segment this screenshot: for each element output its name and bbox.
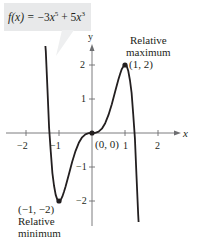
y-tick-label: −1 <box>76 161 87 173</box>
relative-max-label-line2: maximum <box>126 46 171 58</box>
relative-min-label-line2: minimum <box>18 227 61 239</box>
x-axis-label: x <box>183 127 188 139</box>
origin-point <box>89 130 94 135</box>
origin-coordinates: (0, 0) <box>95 138 119 150</box>
y-tick-label: 2 <box>80 59 85 71</box>
x-tick-label: 1 <box>123 140 128 152</box>
y-tick-label: −2 <box>76 195 87 207</box>
relative-max-point <box>122 62 127 67</box>
x-tick-label: 2 <box>155 140 160 152</box>
x-tick-label: −1 <box>50 140 61 152</box>
relative-min-coordinates: (−1, −2) <box>18 203 54 215</box>
relative-min-label-line1: Relative <box>18 215 55 227</box>
relative-max-label-line1: Relative <box>130 34 167 46</box>
function-equation: f(x) = −3x5 + 5x3 <box>8 10 85 23</box>
x-axis-arrow-icon <box>174 131 181 136</box>
y-axis-arrow-icon <box>90 44 95 51</box>
callout-pointer <box>56 30 74 56</box>
y-tick-label: 1 <box>81 93 86 105</box>
relative-min-point <box>56 198 61 203</box>
y-axis-label: y <box>88 31 93 43</box>
relative-max-coordinates: (1, 2) <box>129 58 153 70</box>
x-tick-label: −2 <box>17 140 28 152</box>
